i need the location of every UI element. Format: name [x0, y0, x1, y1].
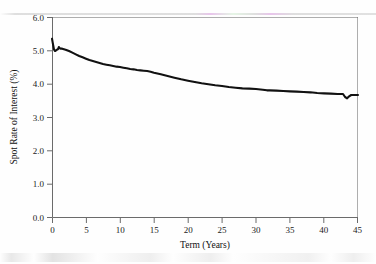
x-tick-label: 25 — [218, 225, 228, 235]
x-tick-label: 5 — [84, 225, 89, 235]
y-tick-label: 3.0 — [33, 113, 45, 123]
y-tick-label: 4.0 — [33, 79, 45, 89]
y-axis-tick-labels: 6.0 5.0 4.0 3.0 2.0 1.0 0.0 — [33, 13, 45, 223]
x-tick-label: 20 — [184, 225, 194, 235]
y-tick-label: 6.0 — [33, 13, 45, 23]
x-tick-label: 15 — [150, 225, 160, 235]
y-tick-label: 5.0 — [33, 46, 45, 56]
x-tick-label: 40 — [319, 225, 329, 235]
x-axis-tick-labels: 0 5 10 15 20 25 30 35 40 45 — [50, 225, 362, 235]
y-tick-label: 2.0 — [33, 146, 45, 156]
y-axis-ticks — [47, 18, 53, 218]
spot-rate-line-chart: 6.0 5.0 4.0 3.0 2.0 1.0 0.0 0 5 10 15 — [0, 0, 376, 264]
x-tick-label: 30 — [252, 225, 262, 235]
y-tick-label: 0.0 — [33, 213, 45, 223]
spot-rate-series-line — [52, 39, 358, 99]
figure-container: 6.0 5.0 4.0 3.0 2.0 1.0 0.0 0 5 10 15 — [0, 0, 376, 264]
y-tick-label: 1.0 — [33, 179, 45, 189]
x-tick-label: 35 — [285, 225, 295, 235]
x-tick-label: 45 — [353, 225, 363, 235]
y-axis-title: Spot Rate of Interest (%) — [9, 70, 20, 165]
x-axis-ticks — [53, 218, 358, 224]
x-axis-title: Term (Years) — [180, 240, 230, 251]
x-tick-label: 0 — [50, 225, 55, 235]
x-tick-label: 10 — [116, 225, 126, 235]
